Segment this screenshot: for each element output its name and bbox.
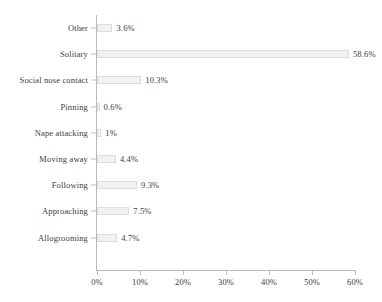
bar-value-label: 7.5% bbox=[133, 206, 151, 216]
bar bbox=[97, 155, 116, 163]
bar-value-label: 1% bbox=[105, 128, 117, 138]
category-label: Approaching bbox=[42, 206, 88, 216]
category-label: Pinning bbox=[60, 102, 88, 112]
category-label: Allogrooming bbox=[38, 233, 88, 243]
bar-value-label: 58.6% bbox=[353, 49, 376, 59]
category-label: Other bbox=[68, 23, 88, 33]
bar-chart: Other3.6%Solitary58.6%Social nose contac… bbox=[0, 0, 382, 302]
y-axis-tick bbox=[91, 28, 96, 29]
bar-row: Following9.3% bbox=[0, 172, 382, 198]
y-axis-tick bbox=[91, 132, 96, 133]
x-axis-tick-label: 10% bbox=[132, 277, 148, 287]
x-axis-tick bbox=[312, 271, 313, 275]
y-axis-tick bbox=[91, 237, 96, 238]
x-axis-tick-label: 20% bbox=[175, 277, 191, 287]
bar-value-label: 4.7% bbox=[121, 233, 139, 243]
bar-row: Solitary58.6% bbox=[0, 41, 382, 67]
x-axis-tick-label: 0% bbox=[91, 277, 103, 287]
category-label: Moving away bbox=[39, 154, 88, 164]
bar-row: Allogrooming4.7% bbox=[0, 225, 382, 251]
bar-value-label: 3.6% bbox=[116, 23, 134, 33]
bar-row: Pinning0.6% bbox=[0, 94, 382, 120]
x-axis-tick-label: 40% bbox=[261, 277, 277, 287]
x-axis-tick-label: 30% bbox=[218, 277, 234, 287]
y-axis-tick bbox=[91, 54, 96, 55]
y-axis-tick bbox=[91, 159, 96, 160]
y-axis-tick bbox=[91, 106, 96, 107]
x-axis-tick bbox=[97, 271, 98, 275]
bar-value-label: 0.6% bbox=[104, 102, 122, 112]
y-axis-tick bbox=[91, 211, 96, 212]
x-axis-tick bbox=[226, 271, 227, 275]
bar-row: Social nose contact10.3% bbox=[0, 67, 382, 93]
bar bbox=[97, 207, 129, 215]
x-axis-tick bbox=[269, 271, 270, 275]
bar-row: Nape attacking1% bbox=[0, 120, 382, 146]
x-axis-tick bbox=[355, 271, 356, 275]
bar-row: Moving away4.4% bbox=[0, 146, 382, 172]
bar-row: Approaching7.5% bbox=[0, 198, 382, 224]
y-axis-tick bbox=[91, 80, 96, 81]
bar bbox=[97, 234, 117, 242]
category-label: Social nose contact bbox=[20, 75, 88, 85]
category-label: Solitary bbox=[60, 49, 88, 59]
bar bbox=[97, 129, 101, 137]
x-axis-tick-label: 50% bbox=[304, 277, 320, 287]
x-axis-tick bbox=[183, 271, 184, 275]
bar bbox=[97, 24, 112, 32]
y-axis-tick bbox=[91, 185, 96, 186]
x-axis-tick bbox=[140, 271, 141, 275]
bar-row: Other3.6% bbox=[0, 15, 382, 41]
category-label: Nape attacking bbox=[35, 128, 88, 138]
category-label: Following bbox=[52, 180, 88, 190]
bar-value-label: 9.3% bbox=[141, 180, 159, 190]
bar-value-label: 10.3% bbox=[145, 75, 168, 85]
bar bbox=[97, 76, 141, 84]
x-axis-tick-label: 60% bbox=[347, 277, 363, 287]
bar bbox=[97, 103, 100, 111]
bar bbox=[97, 181, 137, 189]
bar bbox=[97, 50, 349, 58]
bar-value-label: 4.4% bbox=[120, 154, 138, 164]
